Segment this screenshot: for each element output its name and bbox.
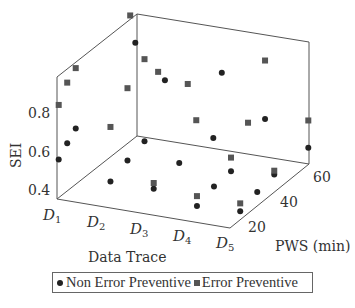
data-markers (56, 0, 312, 214)
square-marker (127, 12, 133, 18)
axis-box (57, 14, 309, 228)
circle-marker (305, 145, 311, 151)
square-marker (56, 102, 62, 108)
circle-marker (228, 168, 234, 174)
square-marker (142, 56, 148, 62)
x-tick-d1-sub: 1 (55, 214, 61, 225)
circle-marker-icon (57, 280, 63, 286)
y-tick-20: 20 (248, 219, 266, 235)
square-marker (271, 168, 277, 174)
x-tick-d5-sub: 5 (228, 242, 234, 253)
square-marker (245, 120, 251, 126)
x-tick-d5-letter: D (215, 234, 228, 252)
circle-marker (162, 77, 168, 83)
legend-item-non-error-preventive: Non Error Preventive (57, 274, 191, 291)
x-tick-d3-letter: D (129, 220, 142, 238)
square-marker (73, 65, 79, 71)
square-marker-icon (194, 280, 200, 286)
circle-marker (142, 138, 148, 144)
z-axis: 0.4 0.6 0.8 SEI (8, 105, 50, 198)
z-tick-0.4: 0.4 (28, 182, 50, 198)
square-marker (262, 58, 268, 64)
circle-marker (56, 157, 62, 163)
circle-marker (254, 189, 260, 195)
z-axis-label: SEI (8, 143, 24, 168)
x-tick-d4-sub: 4 (185, 235, 191, 246)
x-tick-d4: D4 (172, 227, 191, 246)
circle-marker (73, 126, 79, 132)
scatter3d-plot: 0.4 0.6 0.8 SEI D1 D2 D3 D4 D5 Data Trac… (0, 0, 355, 308)
square-marker (305, 117, 311, 123)
x-tick-d5: D5 (215, 234, 234, 253)
square-marker (107, 124, 113, 130)
circle-marker (132, 40, 138, 46)
legend-item-error-preventive: Error Preventive (193, 274, 298, 291)
circle-marker (237, 208, 243, 214)
square-marker (151, 180, 157, 186)
square-marker (155, 69, 161, 75)
legend-label: Non Error Preventive (66, 274, 191, 291)
y-tick-40: 40 (280, 194, 298, 210)
x-tick-d2-sub: 2 (99, 221, 105, 232)
circle-marker (211, 184, 217, 190)
square-marker (64, 80, 70, 86)
circle-marker (107, 179, 113, 185)
circle-marker (151, 186, 157, 192)
square-marker (237, 200, 243, 206)
circle-marker (210, 135, 216, 141)
y-axis-label: PWS (min) (275, 238, 351, 254)
x-axis: D1 D2 D3 D4 D5 Data Trace (42, 206, 234, 265)
square-marker (193, 117, 199, 123)
circle-marker (262, 116, 268, 122)
x-tick-d1: D1 (42, 206, 61, 225)
z-tick-0.6: 0.6 (28, 144, 50, 160)
x-tick-d2-letter: D (86, 213, 99, 231)
square-marker (124, 85, 130, 91)
circle-marker (176, 160, 182, 166)
legend-label: Error Preventive (202, 274, 298, 291)
x-tick-d3-sub: 3 (142, 228, 148, 239)
circle-marker (64, 140, 70, 146)
circle-marker (194, 203, 200, 209)
square-marker (228, 155, 234, 161)
x-tick-d1-letter: D (42, 206, 55, 224)
legend: Non Error Preventive Error Preventive (52, 272, 313, 293)
y-tick-60: 60 (313, 169, 331, 185)
y-axis: 20 40 60 PWS (min) (248, 169, 351, 254)
x-axis-label: Data Trace (88, 249, 167, 265)
circle-marker (219, 70, 225, 76)
circle-marker (124, 157, 130, 163)
square-marker (185, 81, 191, 87)
x-tick-d4-letter: D (172, 227, 185, 245)
x-tick-d2: D2 (86, 213, 105, 232)
square-marker (194, 193, 200, 199)
x-tick-d3: D3 (129, 220, 148, 239)
z-tick-0.8: 0.8 (28, 105, 50, 121)
